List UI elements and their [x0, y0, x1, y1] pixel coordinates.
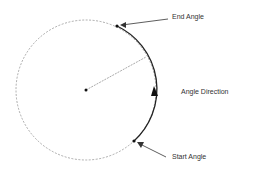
- start-angle-label: Start Angle: [172, 153, 206, 160]
- end-angle-pointer: [122, 19, 168, 25]
- angle-direction-label: Angle Direction: [181, 88, 228, 95]
- end-pointer-arrowhead-icon: [120, 22, 126, 28]
- start-angle-pointer: [140, 144, 166, 157]
- start-angle-point: [132, 139, 135, 142]
- arc-path: [117, 26, 157, 141]
- end-angle-label: End Angle: [172, 13, 204, 20]
- start-pointer-arrowhead-icon: [137, 142, 144, 148]
- arc-angle-diagram: End Angle Angle Direction Start Angle: [0, 0, 256, 178]
- end-angle-point: [115, 24, 118, 27]
- radius-line: [86, 57, 146, 90]
- center-point: [85, 89, 88, 92]
